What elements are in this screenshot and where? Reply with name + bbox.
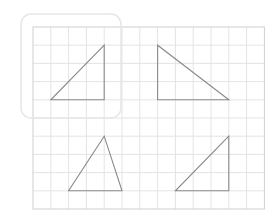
triangle-4[interactable] bbox=[175, 136, 228, 191]
triangle-1[interactable] bbox=[51, 45, 104, 100]
selection-highlight-box bbox=[21, 14, 121, 118]
triangle-3[interactable] bbox=[69, 136, 122, 191]
grid-diagram bbox=[0, 0, 280, 224]
grid-canvas bbox=[0, 0, 280, 224]
